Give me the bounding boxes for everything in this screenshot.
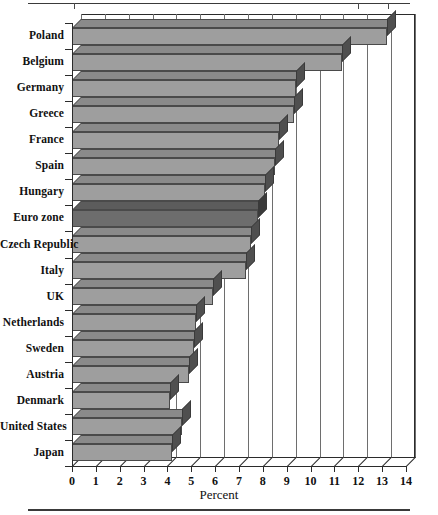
bar-front-face xyxy=(72,210,258,227)
category-label-united-states: United States xyxy=(0,420,64,432)
gridline-14 xyxy=(415,14,416,458)
bar-front-face xyxy=(72,132,279,149)
bar-top-face xyxy=(72,253,255,262)
x-tick-0 xyxy=(72,466,73,472)
category-label-netherlands: Netherlands xyxy=(0,316,64,328)
chart-plot-area: PolandBelgiumGermanyGreeceFranceSpainHun… xyxy=(0,0,438,480)
bar-front-face xyxy=(72,418,182,435)
bar-top-face xyxy=(72,71,305,80)
x-tick-13 xyxy=(382,466,383,472)
category-label-france: France xyxy=(0,133,64,145)
bar-front-face xyxy=(72,158,275,175)
category-tick xyxy=(65,336,72,337)
bar-top-face xyxy=(72,227,260,236)
x-tick-6 xyxy=(215,466,216,472)
bar-top-face xyxy=(72,331,203,340)
x-tick-2 xyxy=(120,466,121,472)
category-tick xyxy=(65,284,72,285)
category-label-uk: UK xyxy=(0,290,64,302)
category-label-italy: Italy xyxy=(0,264,64,276)
category-tick xyxy=(65,75,72,76)
category-tick xyxy=(65,362,72,363)
category-tick xyxy=(65,205,72,206)
x-tick-11 xyxy=(334,466,335,472)
category-tick xyxy=(65,49,72,50)
bar-front-face xyxy=(72,236,251,253)
bar-top-face xyxy=(72,357,198,366)
bar-top-face xyxy=(72,45,351,54)
category-label-poland: Poland xyxy=(0,29,64,41)
category-tick xyxy=(65,414,72,415)
bar-front-face xyxy=(72,444,172,461)
x-tick-1 xyxy=(96,466,97,472)
category-label-belgium: Belgium xyxy=(0,55,64,67)
category-label-spain: Spain xyxy=(0,159,64,171)
category-label-hungary: Hungary xyxy=(0,185,64,197)
bar-top-face xyxy=(72,123,288,132)
category-label-japan: Japan xyxy=(0,446,64,458)
bar-front-face xyxy=(72,288,213,305)
x-tick-5 xyxy=(191,466,192,472)
gridline-12 xyxy=(367,14,368,458)
category-label-czech-republic: Czech Republic xyxy=(0,238,64,250)
bar-front-face xyxy=(72,106,294,123)
bar-top-face xyxy=(72,279,222,288)
bar-top-face xyxy=(72,409,191,418)
x-tick-10 xyxy=(311,466,312,472)
x-tick-9 xyxy=(287,466,288,472)
category-label-germany: Germany xyxy=(0,81,64,93)
x-tick-4 xyxy=(167,466,168,472)
category-label-denmark: Denmark xyxy=(0,394,64,406)
bottom-divider-rule xyxy=(28,509,410,511)
category-tick xyxy=(65,23,72,24)
category-tick xyxy=(65,153,72,154)
gridline-11 xyxy=(343,14,344,458)
category-label-greece: Greece xyxy=(0,107,64,119)
category-label-sweden: Sweden xyxy=(0,342,64,354)
bar-front-face xyxy=(72,80,296,97)
x-tick-7 xyxy=(239,466,240,472)
category-tick xyxy=(65,179,72,180)
floor-connector-14 xyxy=(406,457,416,467)
bar-top-face xyxy=(72,19,396,28)
category-label-austria: Austria xyxy=(0,368,64,380)
bar-front-face xyxy=(72,184,265,201)
bar-top-face xyxy=(72,383,179,392)
category-tick xyxy=(65,101,72,102)
bar-front-face xyxy=(72,314,196,331)
x-axis-title: Percent xyxy=(0,487,438,503)
bar-top-face xyxy=(72,149,284,158)
bar-top-face xyxy=(72,97,303,106)
category-tick xyxy=(65,388,72,389)
bar-top-face xyxy=(72,305,205,314)
category-tick xyxy=(65,231,72,232)
category-label-euro-zone: Euro zone xyxy=(0,211,64,223)
bar-top-face xyxy=(72,435,181,444)
bar-top-face xyxy=(72,201,267,210)
bar-top-face xyxy=(72,175,274,184)
bar-front-face xyxy=(72,392,170,409)
x-tick-12 xyxy=(358,466,359,472)
category-tick xyxy=(65,310,72,311)
category-tick xyxy=(65,258,72,259)
x-tick-3 xyxy=(144,466,145,472)
bar-front-face xyxy=(72,340,194,357)
figure-container: PolandBelgiumGermanyGreeceFranceSpainHun… xyxy=(0,0,438,515)
bar-front-face xyxy=(72,28,387,45)
x-tick-8 xyxy=(263,466,264,472)
category-tick xyxy=(65,440,72,441)
gridline-13 xyxy=(391,14,392,458)
category-tick xyxy=(65,127,72,128)
category-tick xyxy=(65,466,72,467)
x-tick-14 xyxy=(406,466,407,472)
gridline-10 xyxy=(320,14,321,458)
